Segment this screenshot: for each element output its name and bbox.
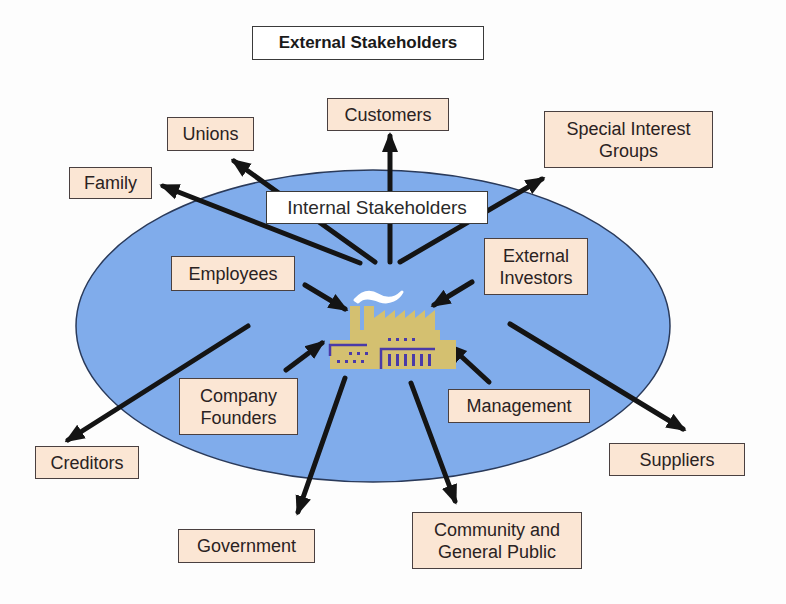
- box-label: Employees: [188, 263, 277, 285]
- box-special-interest-groups: Special Interest Groups: [544, 111, 713, 168]
- box-label: External Investors: [499, 245, 572, 289]
- box-government: Government: [178, 529, 315, 563]
- box-label: Management: [466, 395, 571, 417]
- box-creditors: Creditors: [35, 446, 139, 479]
- box-label: Government: [197, 535, 296, 557]
- internal-label-text: Internal Stakeholders: [287, 197, 467, 219]
- box-external-investors: External Investors: [484, 238, 588, 295]
- box-management: Management: [448, 389, 590, 423]
- box-label: Customers: [344, 104, 431, 126]
- box-family: Family: [69, 167, 152, 199]
- box-label: Family: [84, 172, 137, 194]
- stakeholder-diagram: External Stakeholders Internal Stakehold…: [0, 0, 786, 604]
- box-unions: Unions: [167, 117, 254, 151]
- box-community: Community and General Public: [412, 512, 582, 569]
- box-label: Community and General Public: [434, 519, 560, 563]
- box-label: Special Interest Groups: [566, 118, 690, 162]
- label-internal-stakeholders: Internal Stakeholders: [266, 191, 488, 224]
- title-external-stakeholders: External Stakeholders: [252, 26, 484, 60]
- box-label: Unions: [182, 123, 238, 145]
- box-company-founders: Company Founders: [179, 378, 298, 435]
- box-suppliers: Suppliers: [609, 443, 745, 476]
- box-customers: Customers: [327, 98, 449, 131]
- diagram-canvas: [0, 0, 786, 604]
- box-label: Creditors: [50, 452, 123, 474]
- box-label: Suppliers: [639, 449, 714, 471]
- box-employees: Employees: [171, 256, 295, 291]
- title-text: External Stakeholders: [279, 33, 458, 53]
- box-label: Company Founders: [200, 385, 277, 429]
